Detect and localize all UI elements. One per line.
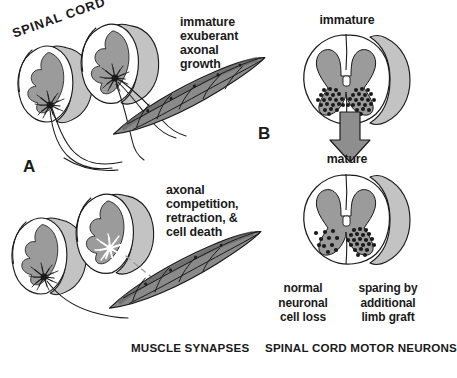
- sublabel-normal-neuronal-cell-loss: normal neuronal cell loss: [268, 281, 338, 325]
- panel-label-b: B: [258, 124, 270, 143]
- cord-section-immature: [304, 34, 410, 124]
- annotation-immature-exuberant-growth: immature exuberant axonal growth: [180, 15, 266, 72]
- sublabel-line: cell loss: [268, 310, 338, 325]
- panel-label-a: A: [23, 157, 35, 176]
- annotation-line: competition,: [166, 197, 262, 211]
- annotation-line: immature: [180, 15, 266, 29]
- sublabel-sparing-by-additional-limb-graft: sparing by additional limb graft: [348, 281, 428, 325]
- annotation-axonal-competition: axonal competition, retraction, & cell d…: [166, 183, 262, 240]
- cord-section-mature: [304, 174, 410, 264]
- annotation-line: axonal: [180, 43, 266, 57]
- sublabel-line: additional: [348, 296, 428, 311]
- cord-block-mature-right: [76, 194, 154, 274]
- section-title-mature: mature: [292, 152, 402, 166]
- annotation-line: axonal: [166, 183, 262, 197]
- caption-spinal-cord-motor-neurons: SPINAL CORD MOTOR NEURONS: [265, 341, 457, 354]
- sublabel-line: limb graft: [348, 310, 428, 325]
- annotation-line: retraction, &: [166, 211, 262, 225]
- annotation-line: growth: [180, 57, 266, 71]
- annotation-line: exuberant: [180, 29, 266, 43]
- sublabel-line: neuronal: [268, 296, 338, 311]
- section-title-immature: immature: [292, 13, 402, 27]
- sublabel-line: sparing by: [348, 281, 428, 296]
- sublabel-line: normal: [268, 281, 338, 296]
- cord-block-immature-right: [81, 24, 159, 104]
- caption-muscle-synapses: MUSCLE SYNAPSES: [131, 341, 249, 354]
- annotation-line: cell death: [166, 225, 262, 239]
